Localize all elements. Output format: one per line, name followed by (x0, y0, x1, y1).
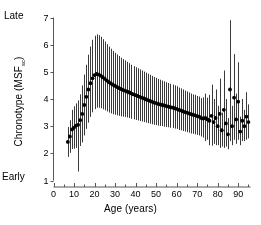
y-axis-title: Chronotype (MSFsc) (13, 27, 26, 177)
x-axis-title: Age (years) (0, 203, 261, 214)
y-axis-pole-label-high: Late (4, 10, 23, 21)
y-axis-title-main: Chronotype (MSF (13, 66, 24, 146)
y-axis-title-subscript: sc (20, 60, 26, 66)
y-axis-title-suffix: ) (13, 56, 24, 59)
chronotype-age-figure: Late Early Chronotype (MSFsc) Age (years… (0, 0, 261, 225)
chart-plot-area (0, 0, 261, 225)
